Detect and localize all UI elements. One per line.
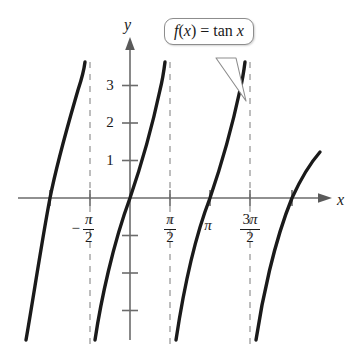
fraction-denominator: 2 [164, 230, 176, 246]
function-label-callout: f(x) = tan x [164, 18, 254, 45]
x-axis-label: x [337, 191, 344, 209]
tangent-branch-two-pi [256, 152, 320, 340]
fraction-numerator: π [83, 212, 95, 228]
x-tick-label-pi: π [196, 217, 220, 234]
x-tick-label-three-half-pi: 3π2 [232, 212, 268, 246]
tangent-function-figure: f(x) = tan x y x 3 2 1 −π2 π2 π 3π2 [0, 0, 358, 357]
fraction-pi-over-2: π2 [83, 212, 95, 246]
x-axis [18, 193, 332, 203]
x-tick-label-neg-half-pi: −π2 [60, 212, 106, 246]
pi-symbol: π [204, 217, 212, 233]
fraction-numerator: π [164, 212, 176, 228]
tangent-branch-neg-pi [26, 62, 85, 340]
y-tick-label-3: 3 [102, 77, 118, 94]
fraction-denominator: 2 [240, 230, 259, 246]
callout-tan: tan [213, 22, 233, 39]
y-axis-label: y [124, 16, 131, 34]
x-axis-arrowhead [318, 193, 332, 203]
fraction-denominator: 2 [83, 230, 95, 246]
callout-var: x [184, 22, 191, 39]
y-axis-arrowhead [125, 37, 135, 50]
tangent-curve [26, 62, 320, 340]
x-tick-label-half-pi: π2 [158, 212, 182, 246]
fraction-numerator: 3π [240, 212, 259, 228]
fraction-3pi-over-2: 3π2 [240, 212, 259, 246]
callout-equals: = [196, 22, 213, 39]
y-tick-label-2: 2 [102, 114, 118, 131]
plot-canvas [0, 0, 358, 357]
callout-arg: x [237, 22, 244, 39]
y-tick-label-1: 1 [102, 152, 118, 169]
fraction-pi-over-2: π2 [164, 212, 176, 246]
minus-sign: − [72, 220, 83, 237]
tangent-branch-pi [176, 62, 245, 340]
